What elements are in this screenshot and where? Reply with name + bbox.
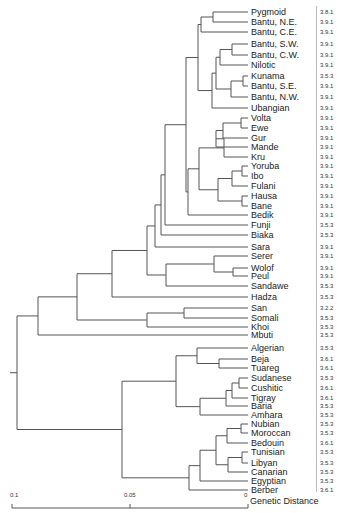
scale-tick-label-0: 0 — [244, 492, 247, 498]
leaf-code: 3.5.3 — [320, 344, 333, 352]
leaf-label: Funji — [251, 220, 271, 230]
leaf-code: 3.5.3 — [320, 72, 333, 80]
leaf-code: 3.5.3 — [320, 477, 333, 485]
leaf-label: Serer — [251, 251, 273, 261]
leaf-label: Sudanese — [251, 373, 292, 383]
leaf-code: 3.9.1 — [320, 40, 333, 48]
leaf-code: 3.6.1 — [320, 384, 333, 392]
leaf-code: 3.6.1 — [320, 486, 333, 494]
leaf-code: 3.5.3 — [320, 282, 333, 290]
leaf-code: 3.9.1 — [320, 104, 333, 112]
leaf-code: 3.5.3 — [320, 468, 333, 476]
leaf-label: Volta — [251, 113, 271, 123]
leaf-label: Ubangian — [251, 103, 290, 113]
scale-tick-label-0-1: 0.1 — [10, 492, 18, 498]
leaf-label: Peul — [251, 271, 269, 281]
leaf-code: 3.9.1 — [320, 134, 333, 142]
leaf-label: Mbuti — [251, 330, 273, 340]
leaf-code: 3.8.1 — [320, 8, 333, 16]
leaf-label: Biaka — [251, 230, 274, 240]
leaf-label: Bantu, C.W. — [251, 50, 299, 60]
leaf-label: Kunama — [251, 71, 285, 81]
leaf-code: 3.5.3 — [320, 323, 333, 331]
leaf-label: Sandawe — [251, 281, 289, 291]
leaf-code: 3.9.1 — [320, 143, 333, 151]
leaf-code: 3.5.3 — [320, 448, 333, 456]
axis-title: Genetic Distance — [250, 496, 319, 506]
leaf-code: 3.9.1 — [320, 114, 333, 122]
leaf-code: 3.5.3 — [320, 331, 333, 339]
leaf-code: 3.9.1 — [320, 162, 333, 170]
leaf-label: Tuareg — [251, 363, 279, 373]
leaf-code: 3.9.1 — [320, 153, 333, 161]
leaf-code: 3.2.2 — [320, 304, 333, 312]
leaf-label: Mande — [251, 142, 279, 152]
leaf-label: Cushitic — [251, 383, 283, 393]
leaf-code: 3.9.1 — [320, 61, 333, 69]
leaf-code: 3.6.1 — [320, 364, 333, 372]
leaf-code: 3.9.1 — [320, 51, 333, 59]
leaf-label: Bantu, N.W. — [251, 92, 299, 102]
leaf-code: 3.5.3 — [320, 293, 333, 301]
leaf-code: 3.5.3 — [320, 411, 333, 419]
leaf-label: Bantu, S.E. — [251, 81, 297, 91]
leaf-code: 3.9.1 — [320, 124, 333, 132]
leaf-label: Moroccan — [251, 428, 291, 438]
leaf-code: 3.9.1 — [320, 243, 333, 251]
leaf-code: 3.9.1 — [320, 182, 333, 190]
leaf-code: 3.9.1 — [320, 82, 333, 90]
leaf-label: Nilotic — [251, 60, 276, 70]
leaf-code: 3.9.1 — [320, 93, 333, 101]
leaf-code: 3.5.3 — [320, 221, 333, 229]
leaf-label: San — [251, 303, 267, 313]
leaf-label: Hausa — [251, 191, 277, 201]
leaf-code: 3.6.1 — [320, 355, 333, 363]
leaf-code: 3.5.3 — [320, 231, 333, 239]
leaf-label: Ewe — [251, 123, 269, 133]
code-column-divider — [316, 6, 317, 492]
leaf-code: 3.5.3 — [320, 459, 333, 467]
leaf-code: 3.9.1 — [320, 192, 333, 200]
leaf-code: 3.9.1 — [320, 202, 333, 210]
leaf-code: 3.9.1 — [320, 28, 333, 36]
leaf-label: Berber — [251, 485, 278, 495]
leaf-code: 3.9.1 — [320, 211, 333, 219]
leaf-label: Yoruba — [251, 161, 279, 171]
leaf-label: Pygmoid — [251, 7, 286, 17]
leaf-code: 3.9.1 — [320, 264, 333, 272]
leaf-code: 3.5.3 — [320, 374, 333, 382]
leaf-label: Bantu, N.E. — [251, 17, 297, 27]
leaf-label: Bantu, C.E. — [251, 27, 297, 37]
leaf-label: Algerian — [251, 343, 284, 353]
scale-tick-label-0-05: 0.05 — [124, 492, 136, 498]
leaf-code: 3.5.3 — [320, 420, 333, 428]
leaf-code: 3.5.3 — [320, 314, 333, 322]
leaf-label: Tunisian — [251, 447, 285, 457]
leaf-code: 3.9.1 — [320, 18, 333, 26]
leaf-label: Bedik — [251, 210, 274, 220]
leaf-label: Ibo — [251, 171, 264, 181]
leaf-code: 3.5.3 — [320, 429, 333, 437]
leaf-code: 3.9.1 — [320, 272, 333, 280]
leaf-code: 3.9.1 — [320, 172, 333, 180]
leaf-code: 3.9.1 — [320, 252, 333, 260]
leaf-code: 3.6.1 — [320, 394, 333, 402]
leaf-code: 3.6.1 — [320, 439, 333, 447]
leaf-label: Fulani — [251, 181, 276, 191]
leaf-label: Bantu, S.W. — [251, 39, 299, 49]
leaf-code: 3.5.3 — [320, 402, 333, 410]
leaf-label: Hadza — [251, 292, 277, 302]
